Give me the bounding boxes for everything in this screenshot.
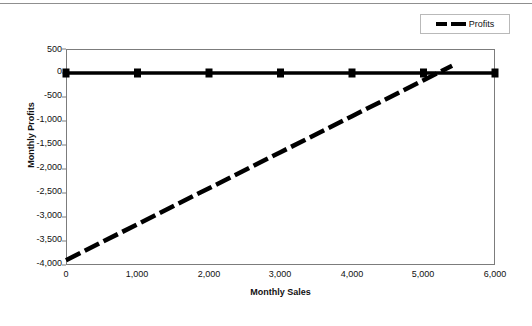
y-tick-label: 0 [22, 67, 62, 76]
y-tick-label: -4,000 [22, 259, 62, 268]
page-top-rule [0, 3, 532, 4]
x-tick-label: 4,000 [322, 270, 382, 279]
x-tick-label: 1,000 [107, 270, 167, 279]
plot-area [66, 49, 495, 265]
y-tick-label: -1,000 [22, 115, 62, 124]
y-tick-label: -500 [22, 91, 62, 100]
y-tick-label: -3,000 [22, 211, 62, 220]
x-tick-label: 3,000 [250, 270, 310, 279]
y-tick-label: -1,500 [22, 139, 62, 148]
y-tick-label: -3,500 [22, 235, 62, 244]
y-tick-label: -2,000 [22, 163, 62, 172]
x-tick-label: 5,000 [393, 270, 453, 279]
chart-figure: Profits Monthly Profits Monthly Sales 50… [0, 0, 532, 326]
y-tick-label: -2,500 [22, 187, 62, 196]
y-tick-label: 500 [22, 45, 62, 54]
legend-label-profits: Profits [469, 19, 495, 29]
x-tick-label: 0 [36, 270, 96, 279]
x-axis-title: Monthly Sales [66, 287, 495, 297]
x-tick-label: 6,000 [465, 270, 525, 279]
legend-swatch-dashed-line-icon [436, 19, 466, 29]
x-tick-label: 2,000 [179, 270, 239, 279]
chart-legend[interactable]: Profits [420, 14, 510, 34]
